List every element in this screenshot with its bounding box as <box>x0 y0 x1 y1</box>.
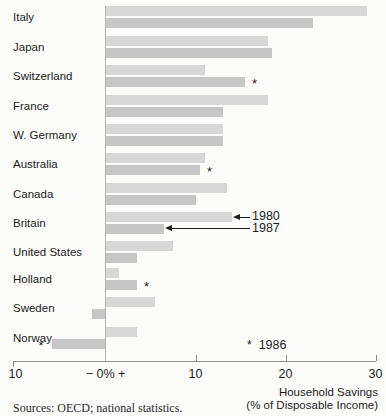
category-label-switzerland: Switzerland <box>13 69 72 83</box>
bar-1987-japan <box>106 48 273 58</box>
axis-title-line2: (% of Disposable Income) <box>246 399 378 411</box>
x-axis-label-30: 30 <box>369 367 383 381</box>
arrow-line-1980 <box>240 217 250 218</box>
arrow-head-1980 <box>233 214 240 220</box>
bar-1987-holland <box>106 280 138 290</box>
asterisk-1986-marker-norway: * <box>39 341 44 351</box>
bar-1980-france <box>106 95 268 105</box>
bar-1980-britain <box>106 212 232 222</box>
bar-1980-canada <box>106 183 228 193</box>
bar-1980-united-states <box>106 241 174 251</box>
note-1986: *1986 <box>247 338 286 352</box>
bar-1980-switzerland <box>106 65 205 75</box>
zero-baseline <box>105 6 106 361</box>
bar-1987-united-states <box>106 253 138 263</box>
source-note: Sources: OECD; national statistics. <box>13 401 182 416</box>
x-axis-tick-20 <box>286 355 287 361</box>
x-axis-tick-10 <box>196 355 197 361</box>
bar-1987-norway <box>52 339 106 349</box>
category-label-norway: Norway <box>13 331 52 345</box>
bar-1987-w-germany <box>106 136 223 146</box>
x-axis-tick-30 <box>376 355 377 361</box>
category-label-holland: Holland <box>13 272 52 286</box>
bar-1980-sweden <box>106 297 156 307</box>
category-label-france: France <box>13 99 49 113</box>
category-label-united-states: United States <box>13 245 82 259</box>
arrow-head-1987 <box>165 225 172 231</box>
x-axis-label-minus10: 10 <box>9 367 23 381</box>
asterisk-icon: * <box>247 338 252 352</box>
bar-1987-italy <box>106 18 313 28</box>
bar-chart-area: ItalyJapanSwitzerland*FranceW. GermanyAu… <box>0 0 386 416</box>
bar-1987-switzerland <box>106 77 246 87</box>
bar-1980-norway <box>106 327 138 337</box>
bar-1987-sweden <box>92 309 106 319</box>
bar-1980-australia <box>106 153 205 163</box>
category-label-sweden: Sweden <box>13 301 55 315</box>
bar-1987-australia <box>106 165 201 175</box>
category-label-japan: Japan <box>13 40 44 54</box>
bar-1987-britain <box>106 224 165 234</box>
axis-title-line1: Household Savings <box>279 386 378 398</box>
arrow-line-1987 <box>172 228 251 229</box>
category-label-canada: Canada <box>13 187 53 201</box>
asterisk-1986-marker-holland: * <box>144 282 149 292</box>
bar-1980-w-germany <box>106 124 223 134</box>
category-label-australia: Australia <box>13 157 58 171</box>
bar-1987-france <box>106 107 223 117</box>
legend-label-1987: 1987 <box>252 222 280 235</box>
bar-1980-italy <box>106 6 367 16</box>
asterisk-1986-marker-switzerland: * <box>252 79 257 89</box>
bar-1987-canada <box>106 195 196 205</box>
economist-savings-chart: ItalyJapanSwitzerland*FranceW. GermanyAu… <box>0 0 386 416</box>
bar-1980-japan <box>106 36 268 46</box>
x-axis-label-10: 10 <box>189 367 203 381</box>
asterisk-1986-marker-australia: * <box>207 167 212 177</box>
category-label-italy: Italy <box>13 10 34 24</box>
category-label-w-germany: W. Germany <box>13 128 77 142</box>
x-axis-line <box>13 361 376 362</box>
bar-1980-holland <box>106 268 120 278</box>
note-1986-label: 1986 <box>259 338 287 352</box>
x-axis-label-0: − 0% + <box>86 367 126 381</box>
x-axis-label-20: 20 <box>279 367 293 381</box>
category-label-britain: Britain <box>13 216 46 230</box>
